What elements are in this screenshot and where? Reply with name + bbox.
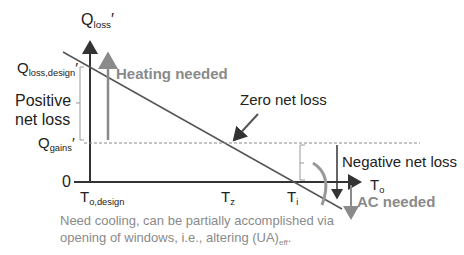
- t-o-design-label: To,design: [80, 189, 124, 208]
- y-axis-label: Qloss′: [81, 12, 114, 30]
- positive-net-loss-label-2: net loss: [15, 112, 70, 128]
- zero-label: 0: [62, 174, 71, 190]
- positive-net-loss-label-1: Positive: [15, 93, 71, 109]
- heating-needed-label: Heating needed: [116, 66, 228, 81]
- ac-needed-label: AC needed: [357, 194, 435, 209]
- q-gains-label: Qgains′: [38, 135, 75, 154]
- curved-arrow: [313, 163, 326, 205]
- zero-net-loss-pointer: [234, 114, 258, 140]
- negative-bracket: [300, 145, 305, 180]
- t-i-label: Ti: [287, 189, 298, 208]
- t-z-label: Tz: [221, 189, 235, 208]
- negative-net-loss-label: Negative net loss: [342, 154, 457, 169]
- cooling-note-line-2: opening of windows, i.e., altering (UA)e…: [60, 231, 291, 247]
- zero-net-loss-label: Zero net loss: [240, 92, 327, 107]
- cooling-note-line-1: Need cooling, can be partially accomplis…: [60, 214, 334, 227]
- q-loss-design-label: Qloss,design′: [17, 60, 78, 79]
